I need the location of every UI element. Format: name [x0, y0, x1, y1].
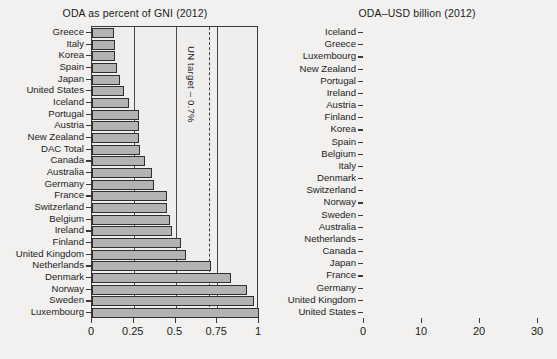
- y-tick: [358, 129, 363, 130]
- x-tick-label: 0.25: [113, 325, 153, 337]
- category-label: Austria: [176, 99, 356, 111]
- category-label: Denmark: [0, 271, 84, 283]
- category-label: Iceland: [0, 96, 84, 108]
- x-tick: [175, 318, 176, 323]
- y-tick: [358, 239, 363, 240]
- y-tick: [86, 160, 91, 161]
- y-tick: [358, 81, 363, 82]
- y-tick: [86, 242, 91, 243]
- bar: [92, 215, 170, 225]
- category-label: Australia: [0, 166, 84, 178]
- y-tick: [358, 142, 363, 143]
- category-label: Switzerland: [0, 201, 84, 213]
- x-tick: [537, 318, 538, 323]
- category-label: DAC Total: [0, 143, 84, 155]
- category-label: Netherlands: [0, 259, 84, 271]
- category-label: Austria: [0, 119, 84, 131]
- y-tick: [86, 114, 91, 115]
- bar: [92, 156, 145, 166]
- y-tick: [86, 44, 91, 45]
- category-label: Ireland: [176, 87, 356, 99]
- category-label: Germany: [0, 178, 84, 190]
- x-tick-label: 0: [71, 325, 111, 337]
- category-label: Netherlands: [176, 233, 356, 245]
- category-label: United States: [176, 306, 356, 318]
- category-label: Ireland: [0, 224, 84, 236]
- bar: [92, 121, 139, 131]
- bar: [92, 86, 124, 96]
- bar: [92, 98, 129, 108]
- x-tick-label: 30: [517, 325, 557, 337]
- category-label: Spain: [0, 61, 84, 73]
- category-label: Luxembourg: [0, 306, 84, 318]
- y-tick: [358, 44, 363, 45]
- category-label: Belgium: [176, 148, 356, 160]
- category-label: Finland: [176, 111, 356, 123]
- category-label: Sweden: [0, 294, 84, 306]
- y-tick: [358, 288, 363, 289]
- y-tick: [86, 79, 91, 80]
- y-tick: [86, 55, 91, 56]
- y-tick: [358, 263, 363, 264]
- chart-title-right: ODA–USD billion (2012): [292, 7, 542, 19]
- bar: [92, 203, 167, 213]
- y-tick: [358, 178, 363, 179]
- bar: [92, 250, 186, 260]
- category-label: Japan: [0, 73, 84, 85]
- x-tick: [133, 318, 134, 323]
- y-tick: [358, 105, 363, 106]
- category-label: Portugal: [0, 108, 84, 120]
- x-tick: [216, 318, 217, 323]
- category-label: Greece: [0, 26, 84, 38]
- bar: [92, 238, 181, 248]
- category-label: Korea: [176, 123, 356, 135]
- y-tick: [86, 195, 91, 196]
- x-tick: [479, 318, 480, 323]
- bar: [92, 145, 140, 155]
- y-tick: [358, 154, 363, 155]
- category-label: Canada: [0, 154, 84, 166]
- y-tick: [86, 125, 91, 126]
- y-tick: [358, 56, 363, 57]
- bar: [92, 191, 167, 201]
- category-label: Norway: [0, 283, 84, 295]
- x-tick: [91, 318, 92, 323]
- y-tick: [358, 69, 363, 70]
- bar: [92, 133, 139, 143]
- y-tick: [358, 215, 363, 216]
- category-label: United Kingdom: [0, 248, 84, 260]
- y-tick: [358, 117, 363, 118]
- x-tick-label: 0.5: [155, 325, 195, 337]
- category-label: Finland: [0, 236, 84, 248]
- y-tick: [86, 172, 91, 173]
- y-tick: [86, 265, 91, 266]
- y-tick: [86, 102, 91, 103]
- category-label: Italy: [176, 160, 356, 172]
- category-label: France: [0, 189, 84, 201]
- y-tick: [358, 190, 363, 191]
- category-label: Switzerland: [176, 184, 356, 196]
- x-tick-label: 0: [343, 325, 383, 337]
- y-tick: [358, 312, 363, 313]
- y-tick: [86, 254, 91, 255]
- y-tick: [358, 251, 363, 252]
- y-tick: [86, 184, 91, 185]
- bar: [92, 168, 152, 178]
- category-label: United Kingdom: [176, 294, 356, 306]
- category-label: Norway: [176, 196, 356, 208]
- y-tick: [86, 137, 91, 138]
- bar: [92, 63, 117, 73]
- x-tick-label: 0.75: [196, 325, 236, 337]
- y-tick: [358, 275, 363, 276]
- category-label: Belgium: [0, 213, 84, 225]
- category-label: Spain: [176, 136, 356, 148]
- category-label: Australia: [176, 221, 356, 233]
- category-label: United States: [0, 84, 84, 96]
- y-tick: [358, 93, 363, 94]
- category-label: France: [176, 269, 356, 281]
- bar: [92, 51, 115, 61]
- x-tick-label: 20: [459, 325, 499, 337]
- y-tick: [86, 289, 91, 290]
- y-tick: [358, 166, 363, 167]
- y-tick: [86, 312, 91, 313]
